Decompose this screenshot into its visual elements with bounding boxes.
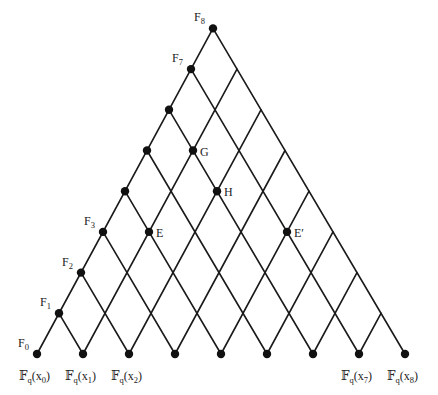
label-fq-x8: 𝔽q(x8)	[387, 369, 418, 385]
lattice-nodes	[33, 24, 409, 358]
node-g	[189, 146, 197, 154]
up-line-1	[83, 69, 237, 354]
node-f8	[209, 24, 217, 32]
down-line-1	[59, 313, 83, 354]
node-bottom-x1	[79, 350, 87, 358]
label-f2: F2	[62, 255, 73, 271]
label-fq-x7: 𝔽q(x7)	[341, 369, 372, 385]
node-f2	[77, 268, 85, 276]
up-line-3	[175, 151, 285, 355]
node-bottom-x6	[309, 350, 317, 358]
node-f6	[165, 106, 173, 114]
label-f0: F0	[18, 336, 29, 352]
label-f1: F1	[40, 295, 51, 311]
node-h	[213, 187, 221, 195]
node-bottom-x3	[171, 350, 179, 358]
node-bottom-x5	[263, 350, 271, 358]
node-f1	[55, 309, 63, 317]
node-f5	[143, 146, 151, 154]
node-bottom-x8	[401, 350, 409, 358]
label-f3: F3	[84, 214, 95, 230]
down-line-7	[191, 69, 359, 354]
node-bottom-x2	[125, 350, 133, 358]
label-fq-x0: 𝔽q(x0)	[19, 369, 50, 385]
label-f7: F7	[172, 51, 183, 67]
up-line-6	[313, 273, 357, 354]
label-e: E	[156, 226, 163, 240]
label-h: H	[224, 185, 233, 199]
node-e-prime	[283, 228, 291, 236]
node-e	[145, 228, 153, 236]
label-e-prime: E′	[294, 226, 304, 240]
up-line-4	[221, 191, 309, 354]
label-fq-x1: 𝔽q(x1)	[65, 369, 96, 385]
node-bottom-x7	[355, 350, 363, 358]
label-fq-x2: 𝔽q(x2)	[111, 369, 142, 385]
up-line-7	[359, 313, 381, 354]
node-f0	[33, 350, 41, 358]
lattice-labels: F0F1F2F3F7F8𝔽q(x0)𝔽q(x1)𝔽q(x2)𝔽q(x7)𝔽q(x…	[18, 10, 418, 385]
node-f4	[121, 187, 129, 195]
label-f8: F8	[194, 10, 205, 26]
label-g: G	[200, 145, 209, 159]
node-bottom-x4	[217, 350, 225, 358]
node-f7	[187, 65, 195, 73]
down-line-5	[147, 151, 267, 355]
node-f3	[99, 228, 107, 236]
lattice-diagram: F0F1F2F3F7F8𝔽q(x0)𝔽q(x1)𝔽q(x2)𝔽q(x7)𝔽q(x…	[0, 0, 438, 395]
